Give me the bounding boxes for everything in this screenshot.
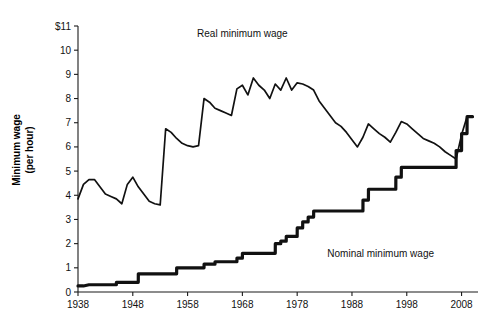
y-tick-label: $11 <box>55 21 71 32</box>
y-tick-label: 2 <box>65 238 71 249</box>
y-tick-label: 0 <box>65 287 71 298</box>
x-tick-label: 1948 <box>122 299 145 310</box>
x-tick-label: 2008 <box>450 299 473 310</box>
real-series-label: Real minimum wage <box>197 28 288 39</box>
chart-canvas: Minimum wage (per hour) 012345678910$11 … <box>0 0 504 324</box>
real-minimum-wage-line <box>78 78 473 205</box>
x-tick-label: 1998 <box>396 299 419 310</box>
x-tick-label: 1988 <box>341 299 364 310</box>
x-tick-label: 1968 <box>231 299 254 310</box>
y-tick-label: 9 <box>65 69 71 80</box>
y-axis-title-group: Minimum wage (per hour) <box>11 114 35 186</box>
y-tick-label: 6 <box>65 141 71 152</box>
y-tick-label: 10 <box>60 45 72 56</box>
nominal-series-label: Nominal minimum wage <box>327 248 434 259</box>
y-tick-label: 4 <box>65 190 71 201</box>
y-tick-label: 8 <box>65 93 71 104</box>
y-tick-label: 1 <box>65 262 71 273</box>
x-tick-label: 1938 <box>67 299 90 310</box>
nominal-minimum-wage-line <box>78 117 473 286</box>
minimum-wage-chart: Minimum wage (per hour) 012345678910$11 … <box>0 0 504 324</box>
y-axis-title-line2: (per hour) <box>24 126 35 173</box>
x-tick-label: 1958 <box>176 299 199 310</box>
y-tick-label: 5 <box>65 166 71 177</box>
y-axis-title-line1: Minimum wage <box>11 114 22 186</box>
x-tick-label: 1978 <box>286 299 309 310</box>
series-annotations: Real minimum wageNominal minimum wage <box>197 28 434 259</box>
y-tick-label: 3 <box>65 214 71 225</box>
y-axis-ticks: 012345678910$11 <box>55 21 78 298</box>
x-axis-ticks: 19381948195819681978198819982008 <box>67 292 473 310</box>
y-tick-label: 7 <box>65 117 71 128</box>
